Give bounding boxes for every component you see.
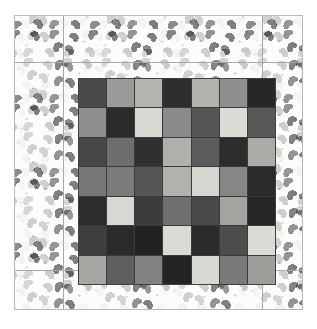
patch-cell-r4-c4 [163,167,190,195]
quilt-photo-canvas [0,0,317,329]
patch-cell-r4-c2 [107,167,134,195]
patch-cell-r5-c4 [163,197,190,225]
patch-cell-r4-c6 [220,167,247,195]
patch-cell-r4-c3 [135,167,162,195]
patch-cell-r6-c4 [163,226,190,254]
patch-cell-r2-c1 [79,108,106,136]
patch-cell-r1-c1 [79,79,106,107]
patch-cell-r3-c1 [79,138,106,166]
quilt-body [14,15,303,310]
patch-cell-r4-c5 [192,167,219,195]
patch-cell-r6-c2 [107,226,134,254]
patch-cell-r5-c6 [220,197,247,225]
patch-cell-r6-c6 [220,226,247,254]
patch-cell-r7-c4 [163,256,190,284]
patch-cell-r1-c5 [192,79,219,107]
patchwork-grid [78,78,276,285]
patch-cell-r1-c7 [248,79,275,107]
patch-cell-r2-c3 [135,108,162,136]
patch-cell-r7-c1 [79,256,106,284]
patch-cell-r5-c3 [135,197,162,225]
patch-cell-r2-c4 [163,108,190,136]
patch-cell-r7-c5 [192,256,219,284]
patch-cell-r2-c6 [220,108,247,136]
patch-cell-r6-c1 [79,226,106,254]
patch-cell-r1-c6 [220,79,247,107]
patch-cell-r4-c1 [79,167,106,195]
patch-cell-r3-c2 [107,138,134,166]
patch-cell-r7-c3 [135,256,162,284]
patch-cell-r5-c5 [192,197,219,225]
patch-cell-r7-c2 [107,256,134,284]
patch-cell-r3-c7 [248,138,275,166]
top-border-seam [15,62,302,63]
patch-cell-r7-c7 [248,256,275,284]
patch-cell-r5-c1 [79,197,106,225]
patch-cell-r6-c3 [135,226,162,254]
left-border-seam [63,16,64,309]
patch-cell-r3-c6 [220,138,247,166]
patch-cell-r4-c7 [248,167,275,195]
patch-cell-r1-c4 [163,79,190,107]
patch-cell-r3-c3 [135,138,162,166]
patch-cell-r2-c5 [192,108,219,136]
patch-cell-r2-c7 [248,108,275,136]
patch-cell-r3-c5 [192,138,219,166]
patch-cell-r6-c7 [248,226,275,254]
patch-cell-r5-c2 [107,197,134,225]
patch-cell-r3-c4 [163,138,190,166]
patch-cell-r1-c3 [135,79,162,107]
patch-cell-r2-c2 [107,108,134,136]
patch-cell-r6-c5 [192,226,219,254]
patch-cell-r1-c2 [107,79,134,107]
patch-cell-r5-c7 [248,197,275,225]
patch-cell-r7-c6 [220,256,247,284]
